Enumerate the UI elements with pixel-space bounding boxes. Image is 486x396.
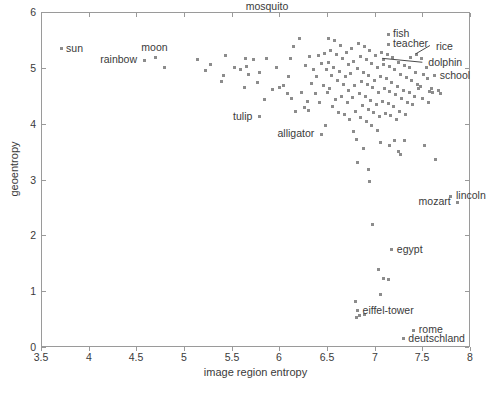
data-point bbox=[402, 89, 405, 92]
data-point bbox=[368, 49, 371, 52]
data-point bbox=[320, 133, 323, 136]
x-tick-label: 5.5 bbox=[225, 351, 240, 363]
data-point bbox=[336, 79, 339, 82]
data-point bbox=[386, 53, 389, 56]
data-point bbox=[434, 158, 437, 161]
data-point bbox=[385, 77, 388, 80]
data-point bbox=[312, 68, 315, 71]
x-tick-mark-top bbox=[41, 13, 42, 17]
data-point bbox=[326, 91, 329, 94]
data-point bbox=[244, 57, 247, 60]
data-point bbox=[371, 223, 374, 226]
point-label-rice: rice bbox=[436, 40, 453, 51]
data-point bbox=[222, 74, 225, 77]
x-tick-label: 8 bbox=[467, 351, 473, 363]
y-tick-label: 6 bbox=[30, 6, 36, 18]
data-point bbox=[310, 82, 313, 85]
data-point bbox=[286, 92, 289, 95]
data-point bbox=[334, 98, 337, 101]
data-point bbox=[338, 70, 341, 73]
data-point bbox=[399, 153, 402, 156]
data-point bbox=[376, 129, 379, 132]
data-point bbox=[394, 93, 397, 96]
data-point bbox=[409, 56, 412, 59]
data-point bbox=[413, 95, 416, 98]
data-point bbox=[415, 53, 418, 56]
data-point bbox=[356, 67, 359, 70]
data-point bbox=[304, 64, 307, 67]
data-point bbox=[381, 100, 384, 103]
x-tick-label: 6 bbox=[276, 351, 282, 363]
point-label-dolphin: dolphin bbox=[428, 57, 462, 68]
data-point bbox=[347, 63, 350, 66]
point-label-teacher: teacher bbox=[393, 38, 428, 49]
data-point bbox=[355, 138, 358, 141]
data-point bbox=[427, 101, 430, 104]
data-point bbox=[350, 47, 353, 50]
data-point bbox=[351, 96, 354, 99]
data-point bbox=[154, 56, 157, 59]
data-point bbox=[392, 105, 395, 108]
data-point bbox=[327, 37, 330, 40]
data-point bbox=[163, 66, 166, 69]
data-point bbox=[377, 91, 380, 94]
data-point bbox=[358, 314, 361, 317]
data-point bbox=[263, 98, 266, 101]
data-point bbox=[331, 105, 334, 108]
data-point bbox=[329, 49, 332, 52]
data-point bbox=[406, 101, 409, 104]
data-point bbox=[332, 66, 335, 69]
data-point bbox=[408, 66, 411, 69]
data-point bbox=[387, 102, 390, 105]
point-label-tulip: tulip bbox=[233, 110, 252, 121]
point-label-lincoln: lincoln bbox=[456, 190, 486, 201]
point-label-egypt: egypt bbox=[397, 243, 423, 254]
x-tick-label: 4.5 bbox=[129, 351, 144, 363]
data-point bbox=[359, 55, 362, 58]
data-point bbox=[353, 84, 356, 87]
data-point bbox=[387, 43, 390, 46]
data-point bbox=[372, 111, 375, 114]
data-point bbox=[330, 74, 333, 77]
data-point bbox=[258, 71, 261, 74]
data-point bbox=[388, 90, 391, 93]
point-label-eiffel-tower: eiffel-tower bbox=[363, 304, 414, 315]
data-point bbox=[376, 66, 379, 69]
data-point bbox=[314, 92, 317, 95]
data-point bbox=[265, 57, 268, 60]
data-point bbox=[393, 139, 396, 142]
data-point bbox=[403, 64, 406, 67]
data-point bbox=[368, 180, 371, 183]
y-tick-mark bbox=[42, 180, 46, 181]
data-point bbox=[379, 141, 382, 144]
data-point bbox=[204, 69, 207, 72]
data-point bbox=[359, 116, 362, 119]
data-point bbox=[290, 97, 293, 100]
data-point bbox=[378, 115, 381, 118]
data-point bbox=[282, 84, 285, 87]
data-point bbox=[382, 58, 385, 61]
data-point bbox=[365, 120, 368, 123]
x-tick-label: 6.5 bbox=[320, 351, 335, 363]
data-point bbox=[328, 87, 331, 90]
data-point bbox=[320, 62, 323, 65]
data-point bbox=[344, 75, 347, 78]
y-tick-mark-right bbox=[465, 124, 469, 125]
data-point bbox=[339, 44, 342, 47]
data-point bbox=[256, 81, 259, 84]
data-point bbox=[387, 33, 390, 36]
point-label-sun: sun bbox=[66, 42, 83, 53]
x-tick-mark-top bbox=[327, 13, 328, 17]
data-point bbox=[384, 112, 387, 115]
data-point bbox=[393, 68, 396, 71]
data-point bbox=[275, 66, 278, 69]
point-label-rainbow: rainbow bbox=[100, 54, 137, 65]
data-point bbox=[356, 309, 359, 312]
data-point bbox=[307, 109, 310, 112]
data-point bbox=[426, 77, 429, 80]
data-point bbox=[143, 59, 146, 62]
x-tick-mark-top bbox=[422, 13, 423, 17]
data-point bbox=[360, 80, 363, 83]
data-point bbox=[345, 51, 348, 54]
data-point bbox=[388, 144, 391, 147]
